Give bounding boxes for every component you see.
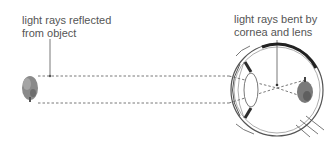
iris-upper (245, 62, 251, 72)
retina-image-icon (297, 77, 313, 103)
eye-diagram (0, 0, 335, 143)
iris-lower (245, 108, 251, 118)
lower-eyelid (236, 124, 254, 134)
light-rays (38, 76, 307, 103)
lens (244, 73, 258, 107)
cornea (233, 64, 241, 116)
tree-object-icon (22, 76, 38, 102)
